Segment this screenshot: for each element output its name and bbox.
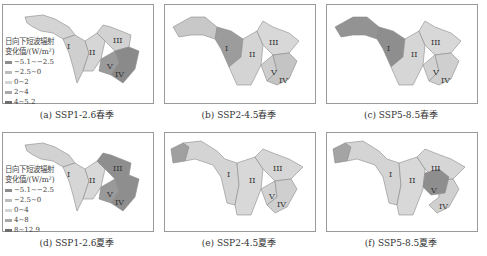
region-label: II xyxy=(409,176,415,185)
region-label: III xyxy=(269,38,278,47)
region-polygon xyxy=(397,157,425,215)
legend-swatch xyxy=(5,219,12,222)
legend-item: 4~8 xyxy=(5,215,55,225)
region-label: II xyxy=(249,176,255,185)
region-polygon xyxy=(25,15,75,39)
region-label: I xyxy=(67,170,70,179)
legend-swatch xyxy=(5,71,12,74)
yangtze-basin-map: I II III IV V xyxy=(327,133,477,231)
panel-caption: (f) SSP5-8.5夏季 xyxy=(324,236,478,249)
legend-label: 2~4 xyxy=(14,87,29,97)
yangtze-basin-map: I II III IV V xyxy=(327,5,477,103)
legend-swatch xyxy=(5,209,12,212)
region-label: III xyxy=(431,164,440,173)
region-label: V xyxy=(432,68,439,77)
legend-item: 0~2 xyxy=(5,77,55,87)
region-label: III xyxy=(113,164,122,173)
legend: 日向下短波辐射 变化值/(W/m²) −5.1~−2.5 −2.5~0 0~4 … xyxy=(5,165,55,235)
legend-swatch xyxy=(5,91,12,94)
region-label: I xyxy=(67,42,70,51)
panel-caption: (a) SSP1-2.6春季 xyxy=(0,108,154,121)
map-panel-c: I II III IV V (c) SSP5-8.5春季 xyxy=(324,0,478,128)
legend-swatch xyxy=(5,101,12,104)
region-label: V xyxy=(106,62,113,71)
map-panel-d: I II III IV V 日向下短波辐射 变化值/(W/m²) −5.1~−2… xyxy=(0,128,154,256)
region-label: I xyxy=(389,170,392,179)
region-label: I xyxy=(227,170,230,179)
region-polygon xyxy=(345,141,401,205)
map-panel-a: I II III IV V 日向下短波辐射 变化值/(W/m²) −5.1~−2… xyxy=(0,0,154,128)
map-frame: I II III IV V 日向下短波辐射 变化值/(W/m²) −5.1~−2… xyxy=(2,4,154,104)
map-frame: I II III IV V xyxy=(164,132,316,232)
region-label: III xyxy=(113,36,122,45)
map-frame: I II III IV V xyxy=(164,4,316,104)
legend-title: 日向下短波辐射 xyxy=(5,37,55,47)
region-label: III xyxy=(273,164,282,173)
region-label: IV xyxy=(279,76,288,85)
legend-label: 0~4 xyxy=(14,205,29,215)
region-polygon xyxy=(235,157,263,215)
legend-swatch xyxy=(5,229,12,232)
region-label: V xyxy=(106,190,113,199)
legend-item: 8~12.9 xyxy=(5,225,55,235)
legend: 日向下短波辐射 变化值/(W/m²) −5.1~−2.5 −2.5~0 0~2 … xyxy=(5,37,55,107)
legend-item: −5.1~−2.5 xyxy=(5,57,55,67)
legend-item: 0~4 xyxy=(5,205,55,215)
panel-caption: (d) SSP1-2.6夏季 xyxy=(0,236,154,249)
region-label: IV xyxy=(439,202,448,211)
legend-label: 4~5.2 xyxy=(14,97,35,107)
legend-title: 日向下短波辐射 xyxy=(5,165,55,175)
legend-unit: 变化值/(W/m²) xyxy=(5,175,55,185)
legend-label: −5.1~−2.5 xyxy=(14,57,54,67)
panel-caption: (e) SSP2-4.5夏季 xyxy=(162,236,316,249)
legend-item: 4~5.2 xyxy=(5,97,55,107)
map-frame: I II III IV V 日向下短波辐射 变化值/(W/m²) −5.1~−2… xyxy=(2,132,154,232)
region-label: II xyxy=(89,176,95,185)
legend-item: −5.1~−2.5 xyxy=(5,185,55,195)
legend-label: −2.5~0 xyxy=(14,67,41,77)
legend-item: 2~4 xyxy=(5,87,55,97)
legend-unit: 变化值/(W/m²) xyxy=(5,47,55,57)
legend-swatch xyxy=(5,199,12,202)
legend-label: 4~8 xyxy=(14,215,29,225)
panel-caption: (b) SSP2-4.5春季 xyxy=(162,108,316,121)
region-polygon xyxy=(25,143,75,167)
region-label: II xyxy=(411,50,417,59)
region-label: IV xyxy=(115,70,124,79)
map-panel-f: I II III IV V (f) SSP5-8.5夏季 xyxy=(324,128,478,256)
map-frame: I II III IV V xyxy=(326,132,478,232)
legend-item: −2.5~0 xyxy=(5,195,55,205)
region-label: V xyxy=(268,192,275,201)
region-label: V xyxy=(270,68,277,77)
region-label: V xyxy=(430,186,437,195)
map-panel-b: I II III IV V (b) SSP2-4.5春季 xyxy=(162,0,316,128)
panel-caption: (c) SSP5-8.5春季 xyxy=(324,108,478,121)
region-label: I xyxy=(387,44,390,53)
legend-label: 8~12.9 xyxy=(14,225,40,235)
region-label: I xyxy=(225,44,228,53)
legend-label: −2.5~0 xyxy=(14,195,41,205)
region-label: III xyxy=(431,38,440,47)
legend-label: −5.1~−2.5 xyxy=(14,185,54,195)
legend-swatch xyxy=(5,189,12,192)
legend-swatch xyxy=(5,61,12,64)
legend-label: 0~2 xyxy=(14,77,29,87)
legend-item: −2.5~0 xyxy=(5,67,55,77)
region-label: II xyxy=(249,50,255,59)
yangtze-basin-map: I II III IV V xyxy=(165,5,315,103)
region-polygon xyxy=(183,141,239,205)
map-frame: I II III IV V xyxy=(326,4,478,104)
region-label: IV xyxy=(277,200,286,209)
region-label: II xyxy=(89,48,95,57)
region-label: IV xyxy=(441,76,450,85)
yangtze-basin-map: I II III IV V xyxy=(165,133,315,231)
legend-swatch xyxy=(5,81,12,84)
map-panel-e: I II III IV V (e) SSP2-4.5夏季 xyxy=(162,128,316,256)
region-label: IV xyxy=(115,198,124,207)
